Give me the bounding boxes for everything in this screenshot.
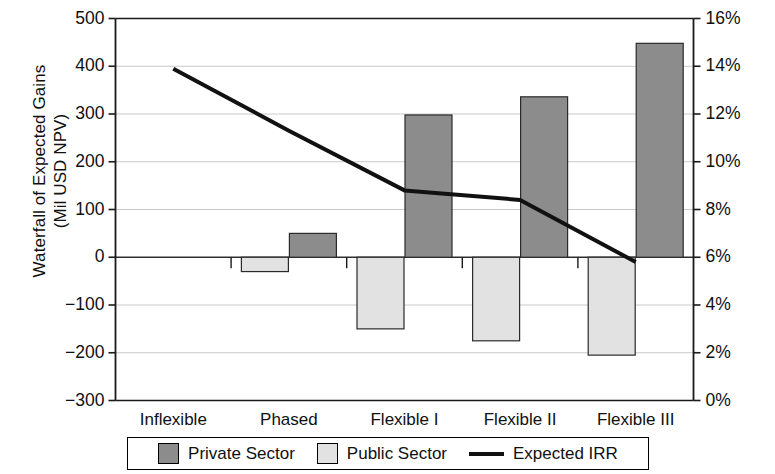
- chart-legend: Private SectorPublic SectorExpected IRR: [127, 437, 649, 470]
- bar-public-sector[interactable]: [588, 257, 635, 355]
- legend-swatch-icon: [158, 443, 179, 464]
- y-axis-right-tick-label: 10%: [706, 151, 741, 172]
- y-axis-left-tick-label: 400: [75, 55, 104, 76]
- y-axis-right-tick-label: 12%: [706, 103, 741, 124]
- y-axis-left-tick-label: 500: [75, 8, 104, 29]
- legend-label: Private Sector: [188, 444, 295, 464]
- bar-public-sector[interactable]: [357, 257, 404, 329]
- y-axis-left-tick-label: 0: [95, 246, 105, 267]
- x-axis-category-label: Flexible III: [578, 410, 694, 430]
- y-axis-right-tick-label: 0%: [706, 390, 731, 411]
- y-axis-left-tick-label: 300: [75, 103, 104, 124]
- plot-area: [0, 0, 775, 474]
- bar-public-sector[interactable]: [473, 257, 520, 341]
- bar-private-sector[interactable]: [636, 43, 683, 257]
- y-axis-right-tick-label: 4%: [706, 294, 731, 315]
- y-axis-left-tick-label: −200: [65, 342, 104, 363]
- legend-label: Expected IRR: [513, 444, 618, 464]
- y-axis-right-tick-label: 8%: [706, 199, 731, 220]
- bar-public-sector[interactable]: [241, 257, 288, 271]
- bar-private-sector[interactable]: [521, 97, 568, 257]
- y-axis-left-tick-label: 100: [75, 199, 104, 220]
- y-axis-right-tick-label: 16%: [706, 8, 741, 29]
- legend-line-icon: [469, 452, 504, 456]
- x-axis-category-label: Flexible I: [347, 410, 463, 430]
- legend-swatch-icon: [317, 443, 338, 464]
- x-axis-category-label: Phased: [231, 410, 347, 430]
- y-axis-left-tick-label: 200: [75, 151, 104, 172]
- y-axis-right-tick-label: 14%: [706, 55, 741, 76]
- x-axis-category-label: Flexible II: [462, 410, 578, 430]
- legend-label: Public Sector: [347, 444, 447, 464]
- y-axis-left-tick-label: −100: [65, 294, 104, 315]
- legend-item[interactable]: Private Sector: [158, 443, 295, 464]
- chart-figure: Waterfall of Expected Gains (Mil USD NPV…: [0, 0, 775, 474]
- legend-item[interactable]: Public Sector: [317, 443, 447, 464]
- y-axis-right-tick-label: 6%: [706, 246, 731, 267]
- x-axis-category-label: Inflexible: [116, 410, 232, 430]
- bar-private-sector[interactable]: [405, 115, 452, 257]
- y-axis-left-tick-label: −300: [65, 390, 104, 411]
- y-axis-right-tick-label: 2%: [706, 342, 731, 363]
- bar-private-sector[interactable]: [289, 233, 336, 257]
- legend-item[interactable]: Expected IRR: [469, 444, 618, 464]
